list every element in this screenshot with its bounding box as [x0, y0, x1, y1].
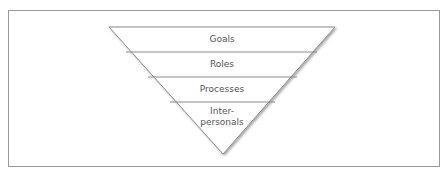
layer-interpersonals-line2: personals — [172, 117, 272, 128]
layer-interpersonals-line1: Inter- — [172, 106, 272, 117]
layer-interpersonals: Inter- personals — [172, 106, 272, 128]
layer-roles: Roles — [172, 59, 272, 70]
layer-processes: Processes — [172, 84, 272, 95]
layer-goals: Goals — [172, 34, 272, 45]
